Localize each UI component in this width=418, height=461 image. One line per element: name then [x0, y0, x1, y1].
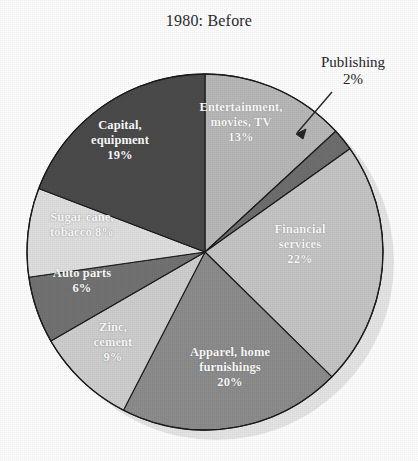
- callout-label-publishing: Publishing 2%: [292, 54, 414, 88]
- pie-slice-group: [27, 74, 383, 430]
- pie-chart-figure: 1980: Before Entertainment, movies, TV 1…: [0, 0, 418, 461]
- callout-percent: 2%: [292, 71, 414, 88]
- callout-line1: Publishing: [321, 54, 385, 70]
